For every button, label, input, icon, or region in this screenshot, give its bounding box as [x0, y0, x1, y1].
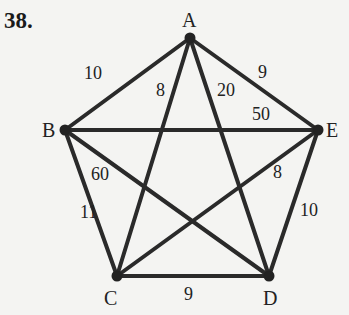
edge-weight-a-b: 10	[84, 63, 102, 83]
edge-a-c	[117, 38, 190, 276]
edge-weight-e-d: 10	[300, 200, 318, 220]
weighted-graph: 1098205060118109ABECD	[0, 0, 349, 315]
vertex-label-b: B	[42, 119, 55, 141]
vertex-c	[112, 271, 123, 282]
edge-weight-c-d: 9	[184, 284, 193, 304]
vertex-label-c: C	[104, 287, 117, 309]
vertex-d	[264, 271, 275, 282]
edge-weight-e-c: 8	[273, 162, 282, 182]
vertex-a	[185, 33, 196, 44]
labels: 1098205060118109ABECD	[42, 9, 338, 309]
edge-a-b	[65, 38, 190, 130]
edge-weight-a-c: 8	[156, 80, 165, 100]
edge-weight-a-e: 9	[258, 62, 267, 82]
edge-weight-b-d: 60	[91, 164, 109, 184]
vertex-label-d: D	[263, 287, 277, 309]
edge-weight-b-c: 11	[80, 202, 97, 222]
edges	[65, 38, 318, 276]
edge-weight-b-e: 50	[252, 104, 270, 124]
vertex-b	[60, 125, 71, 136]
vertex-e	[313, 125, 324, 136]
edge-weight-a-d: 20	[217, 80, 235, 100]
vertex-label-e: E	[326, 119, 338, 141]
vertex-label-a: A	[182, 9, 197, 31]
edge-e-c	[117, 130, 318, 276]
